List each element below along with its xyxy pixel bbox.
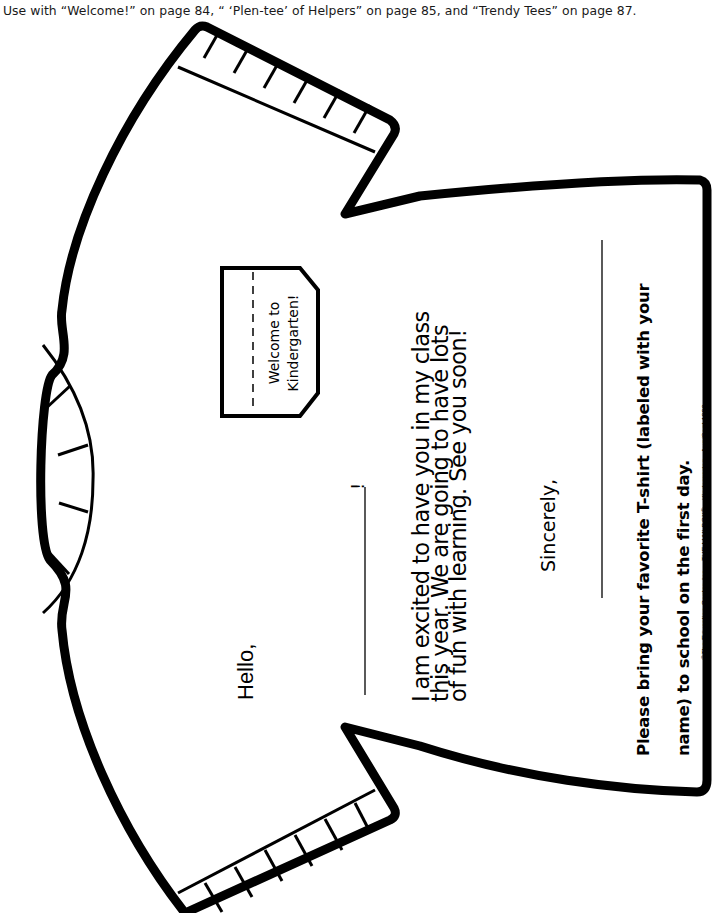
- tag-line-2: Kindergarten!: [284, 268, 303, 418]
- instructions: Please bring your favorite T-shirt (labe…: [624, 283, 704, 756]
- copyright-line: ©The Education Center, Inc. • THE MAILBO…: [700, 404, 709, 660]
- tag-line-1: Welcome to: [265, 268, 284, 418]
- copyright-magazine: THE MAILBOX® • Kindergarten: [700, 459, 709, 562]
- greeting-exclamation: !: [347, 483, 368, 490]
- instructions-line-1: Please bring your favorite T-shirt (labe…: [624, 283, 664, 756]
- letter-line-3: of fun with learning. See you soon!: [449, 311, 468, 702]
- letter-body: I am excited to have you in my class thi…: [412, 311, 468, 702]
- tshirt-outline: [0, 0, 717, 913]
- copyright-prefix: ©The Education Center, Inc. •: [700, 562, 709, 660]
- copyright-suffix: • Aug/Sept 1999: [700, 404, 709, 459]
- greeting-hello: Hello,: [233, 644, 259, 700]
- shirt-body-outline: [41, 26, 707, 913]
- tag-text: Welcome to Kindergarten!: [265, 268, 303, 418]
- letter-closing: Sincerely,: [537, 479, 559, 572]
- instructions-line-2: name) to school on the first day.: [664, 283, 704, 756]
